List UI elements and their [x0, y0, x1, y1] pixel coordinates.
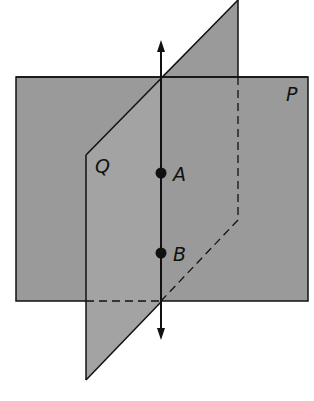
label-a: A	[171, 163, 186, 185]
label-q: Q	[95, 155, 110, 177]
two-planes-diagram: P Q A B	[0, 0, 314, 401]
point-a	[156, 168, 167, 179]
point-b	[156, 248, 167, 259]
label-p: P	[286, 83, 298, 105]
label-b: B	[173, 243, 186, 265]
arrow-down-icon	[157, 328, 165, 340]
arrow-up-icon	[157, 40, 165, 52]
